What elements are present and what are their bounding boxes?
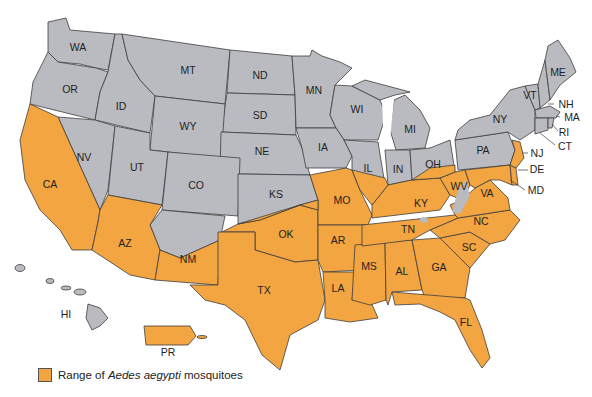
legend-suffix: mosquitoes bbox=[181, 369, 243, 381]
label-ok: OK bbox=[278, 228, 293, 240]
label-nj: NJ bbox=[531, 147, 544, 159]
legend: Range of Aedes aegypti mosquitoes bbox=[38, 368, 243, 382]
label-ky: KY bbox=[414, 197, 428, 209]
label-il: IL bbox=[364, 162, 373, 174]
label-az: AZ bbox=[118, 237, 132, 249]
label-sc: SC bbox=[462, 241, 477, 253]
label-ks: KS bbox=[269, 188, 283, 200]
state-ct bbox=[535, 118, 548, 134]
label-md: MD bbox=[528, 184, 545, 196]
label-ga: GA bbox=[431, 261, 446, 273]
label-mo: MO bbox=[334, 194, 351, 206]
label-ny: NY bbox=[493, 113, 508, 125]
label-ia: IA bbox=[318, 141, 328, 153]
hawaii-island-1 bbox=[15, 265, 25, 272]
label-wy: WY bbox=[180, 120, 197, 132]
ct-callout bbox=[540, 133, 555, 145]
label-in: IN bbox=[393, 163, 404, 175]
label-oh: OH bbox=[425, 158, 441, 170]
label-pa: PA bbox=[476, 144, 489, 156]
label-nv: NV bbox=[77, 151, 92, 163]
label-sd: SD bbox=[253, 109, 268, 121]
hawaii-island-2 bbox=[46, 279, 54, 284]
legend-label: Range of Aedes aegypti mosquitoes bbox=[58, 369, 243, 381]
label-de: DE bbox=[530, 163, 545, 175]
hawaii-big-island bbox=[86, 304, 108, 330]
label-fl: FL bbox=[460, 316, 472, 328]
state-ms bbox=[352, 242, 386, 305]
label-al: AL bbox=[396, 265, 409, 277]
hawaii-island-3 bbox=[61, 286, 71, 290]
label-nd: ND bbox=[252, 69, 268, 81]
us-map: WA OR ID MT ND SD WY NE MN WI MI IA IL I… bbox=[0, 0, 592, 397]
label-id: ID bbox=[116, 100, 127, 112]
legend-species: Aedes aegypti bbox=[108, 369, 181, 381]
label-la: LA bbox=[332, 282, 345, 294]
legend-swatch-in-range bbox=[38, 368, 52, 382]
label-ne: NE bbox=[255, 145, 270, 157]
label-wi: WI bbox=[351, 103, 364, 115]
label-va: VA bbox=[480, 187, 493, 199]
label-mn: MN bbox=[306, 84, 322, 96]
label-ut: UT bbox=[130, 161, 145, 173]
label-vt: VT bbox=[523, 89, 537, 101]
label-nm: NM bbox=[180, 253, 196, 265]
label-nh: NH bbox=[558, 98, 573, 110]
label-or: OR bbox=[62, 83, 78, 95]
tn-gray-spot bbox=[420, 217, 428, 223]
label-ma: MA bbox=[564, 111, 580, 123]
hawaii-island-4 bbox=[74, 289, 86, 295]
label-ms: MS bbox=[361, 260, 377, 272]
label-tx: TX bbox=[257, 284, 270, 296]
label-mi: MI bbox=[404, 123, 416, 135]
label-pr: PR bbox=[161, 346, 176, 358]
state-ri bbox=[548, 118, 554, 128]
label-hi: HI bbox=[61, 308, 72, 320]
label-co: CO bbox=[188, 179, 204, 191]
label-ca: CA bbox=[43, 178, 58, 190]
legend-prefix: Range of bbox=[58, 369, 108, 381]
label-me: ME bbox=[550, 66, 566, 78]
label-wv: WV bbox=[451, 180, 468, 192]
ri-callout bbox=[552, 124, 558, 131]
state-fl bbox=[392, 292, 490, 368]
label-wa: WA bbox=[70, 41, 87, 53]
label-nc: NC bbox=[473, 215, 489, 227]
puerto-rico bbox=[144, 326, 196, 345]
label-mt: MT bbox=[180, 64, 196, 76]
label-ri: RI bbox=[559, 126, 570, 138]
label-tn: TN bbox=[401, 223, 415, 235]
pr-islet bbox=[197, 336, 207, 339]
label-ar: AR bbox=[331, 234, 346, 246]
label-ct: CT bbox=[558, 140, 573, 152]
